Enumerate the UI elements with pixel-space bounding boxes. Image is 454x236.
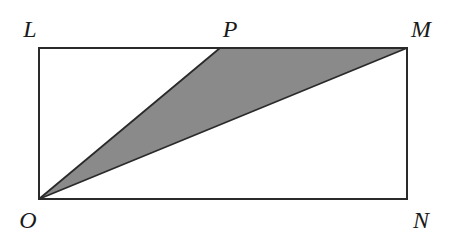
vertex-label-p: P xyxy=(222,16,238,42)
vertex-label-n: N xyxy=(412,207,431,233)
vertex-label-l: L xyxy=(22,16,36,42)
vertex-label-m: M xyxy=(410,16,433,42)
vertex-label-o: O xyxy=(19,207,36,233)
geometry-diagram: L P M O N xyxy=(0,0,454,236)
